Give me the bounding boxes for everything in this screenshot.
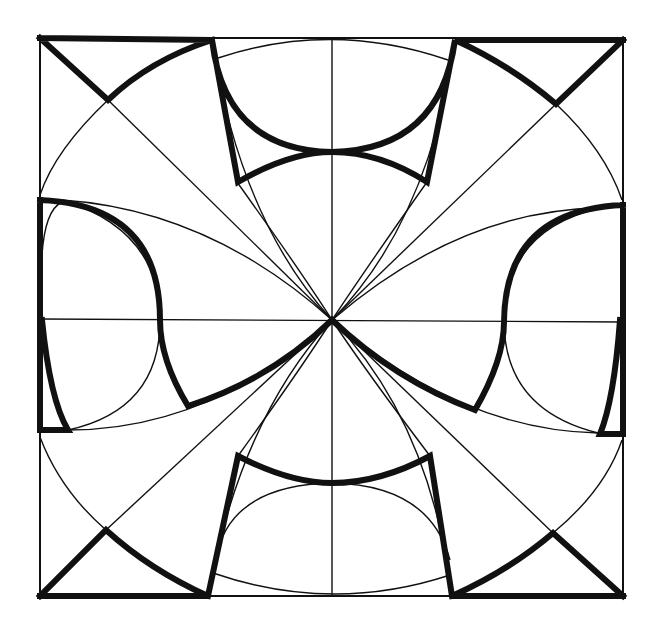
big-arc-left-bottom	[40, 437, 106, 530]
diagonal-tl	[108, 100, 332, 320]
left-thick-shape	[40, 200, 332, 430]
arc-bottom-right-long	[332, 320, 452, 596]
arc-top-left-long	[212, 40, 332, 320]
arc-top-right-long	[332, 40, 455, 320]
right-inner-circle	[504, 208, 600, 433]
right-thick-shape	[332, 205, 623, 434]
big-arc-left	[40, 100, 108, 195]
corner-tl-thick	[40, 38, 212, 100]
big-arc-right	[556, 104, 622, 200]
fan-top-right	[332, 182, 427, 320]
left-inner-circle	[62, 200, 160, 430]
big-arc-right-bottom	[553, 440, 622, 533]
top-thick-shape	[212, 40, 455, 182]
bottom-inner-circle	[216, 483, 450, 560]
fan-bottom-left	[238, 320, 332, 456]
corner-br-thick	[452, 533, 623, 596]
fan-top-left	[237, 182, 332, 320]
diagonal-tr	[332, 104, 556, 320]
arc-bottom-left-long	[208, 320, 332, 596]
arc-right-top	[332, 208, 600, 320]
bottom-thick-shape	[208, 456, 452, 596]
corner-bl-thick	[40, 530, 208, 596]
corner-tr-thick	[455, 40, 623, 104]
left-arc-outer	[42, 202, 62, 255]
fan-bottom-right	[332, 320, 430, 456]
top-inner-circle	[212, 40, 455, 152]
geometric-diagram	[0, 0, 656, 636]
arc-left-bottom	[68, 320, 332, 430]
top-arc-upper	[218, 39, 448, 60]
